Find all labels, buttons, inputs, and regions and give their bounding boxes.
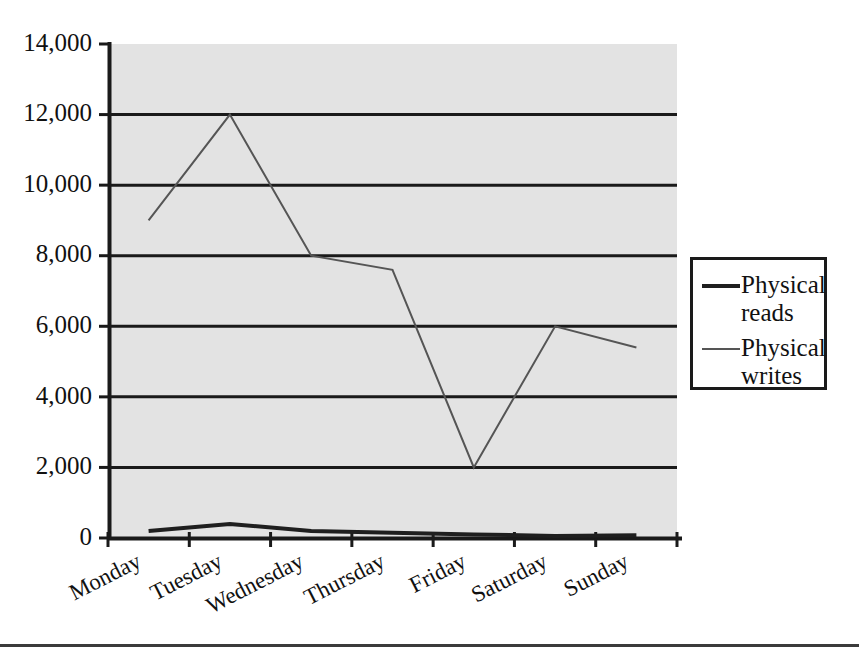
x-axis-tick-labels: MondayTuesdayWednesdayThursdayFridaySatu… [65,548,633,618]
y-axis-tick-labels: 02,0004,0006,0008,00010,00012,00014,000 [23,29,92,550]
y-axis-tick-label: 4,000 [36,382,92,409]
y-axis-tick-label: 8,000 [36,240,92,267]
plot-area-background [108,44,677,538]
bottom-divider-rule [0,644,859,647]
legend-label: writes [741,362,802,389]
line-chart: 02,0004,0006,0008,00010,00012,00014,000 … [0,0,859,661]
y-axis-tick-label: 12,000 [23,99,92,126]
x-axis-tick-label: Saturday [467,548,552,608]
chart-figure: 02,0004,0006,0008,00010,00012,00014,000 … [0,0,859,661]
y-axis-tick-label: 6,000 [36,311,92,338]
legend-label: Physical [741,334,826,361]
legend-label: Physical [741,271,826,298]
y-axis-tick-label: 14,000 [23,29,92,56]
x-axis-tick-label: Thursday [300,548,389,610]
y-axis-tick-label: 10,000 [23,170,92,197]
y-axis-tick-label: 2,000 [36,452,92,479]
chart-legend: PhysicalreadsPhysicalwrites [692,259,826,389]
legend-label: reads [741,299,794,326]
y-axis-tick-label: 0 [80,523,93,550]
x-axis-tick-label: Sunday [560,548,633,602]
x-axis-tick-label: Monday [65,548,145,605]
x-axis-tick-label: Friday [405,548,470,598]
